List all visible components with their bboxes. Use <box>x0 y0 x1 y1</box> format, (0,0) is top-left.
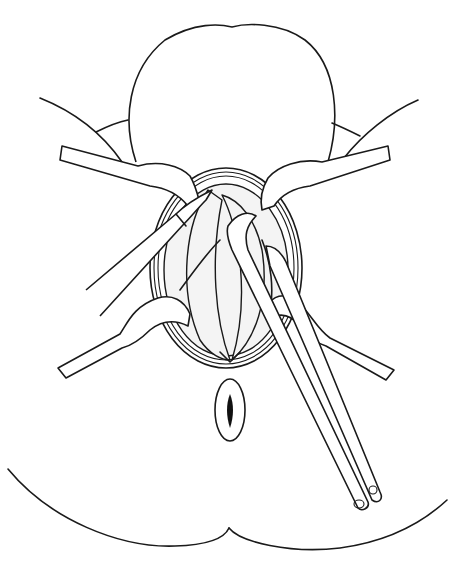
right-buttock-outline <box>229 500 447 550</box>
right-thigh-inner <box>332 123 360 136</box>
surgical-illustration <box>0 0 453 569</box>
left-lower-retractor <box>58 297 190 378</box>
left-thigh-inner <box>96 120 128 132</box>
forceps-prong-right <box>266 246 381 502</box>
anus-opening <box>227 394 233 428</box>
left-buttock-outline <box>8 469 229 546</box>
upper-mound-outline <box>129 25 335 162</box>
